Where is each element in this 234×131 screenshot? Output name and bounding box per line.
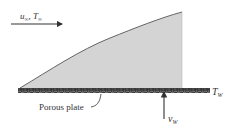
porous-plate-diagram: u∞, T∞ TW vW Porous plate: [0, 0, 234, 131]
porous-plate: [18, 88, 210, 93]
porous-plate-leader: [91, 94, 101, 107]
wall-temperature-label: TW: [212, 86, 224, 98]
porous-plate-label: Porous plate: [39, 102, 84, 112]
wall-velocity-label: vW: [168, 113, 178, 125]
boundary-layer-region: [20, 12, 182, 88]
freestream-label: u∞, T∞: [20, 11, 42, 22]
